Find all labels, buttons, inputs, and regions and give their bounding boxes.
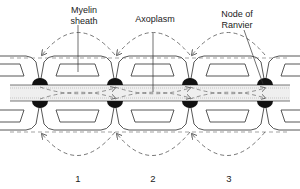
myelin-sheath-top-inner [281,64,300,76]
myelin-sheath-bottom-outer [0,102,40,130]
myelin-sheath-bottom-outer [40,102,115,130]
myelin-label-line2: sheath [70,16,97,26]
myelin-label-line1: Myelin [71,5,97,15]
axoplasm-label: Axoplasm [135,14,175,24]
myelin-sheath-top-outer [0,56,40,84]
node-label-line1: Node of [221,9,253,19]
myelin-sheath-bottom-outer [190,102,265,130]
node-of-ranvier-top [32,78,48,85]
myelin-sheath-bottom-inner [0,110,24,122]
node-of-ranvier-top [107,78,123,85]
node-of-ranvier-bottom [32,101,48,108]
saltatory-conduction-diagram: Myelin sheath Axoplasm Node of Ranvier 1… [0,0,300,189]
axoplasm-band [10,85,290,101]
current-arc-outer-top [192,33,265,56]
myelin-sheath-top-outer [44,56,115,84]
current-arc-outer-top [42,33,115,56]
current-arc-outer-top [117,33,190,56]
myelin-sheath-bottom-inner [56,110,99,122]
segment-number-1: 1 [75,173,80,184]
myelin-sheath-top-inner [206,64,249,76]
myelin-sheath-top-outer [269,56,300,84]
node-of-ranvier-bottom [107,101,123,108]
myelin-sheath-top-inner [0,64,24,76]
current-arc-outer-bottom [117,132,190,156]
myelin-sheath-top-inner [131,64,174,76]
segment-number-2: 2 [150,173,155,184]
myelin-sheath-bottom-outer [115,102,190,130]
current-arc-outer-bottom [42,132,115,156]
node-of-ranvier-top [257,78,273,85]
node-label-line2: Ranvier [221,20,252,30]
node-of-ranvier-bottom [182,101,198,108]
current-arc-outer-bottom [192,132,265,156]
myelin-sheath-bottom-inner [281,110,300,122]
myelin-sheath-bottom-inner [206,110,249,122]
node-of-ranvier-top [182,78,198,85]
node-of-ranvier-bottom [257,101,273,108]
myelin-sheath-top-outer [119,56,190,84]
myelin-sheath-bottom-inner [131,110,174,122]
segment-number-3: 3 [226,173,231,184]
myelin-sheath-top-inner [56,64,99,76]
